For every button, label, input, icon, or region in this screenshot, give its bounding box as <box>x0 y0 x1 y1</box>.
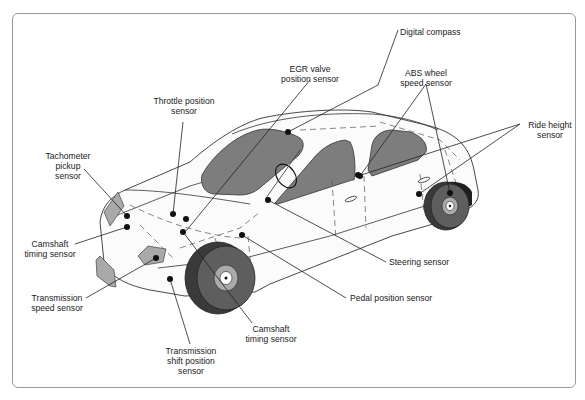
label-tachometer-l1: Tachometer <box>46 151 91 161</box>
dot-ride-height-mid <box>355 172 361 178</box>
label-pedal: Pedal position sensor <box>350 293 432 303</box>
dot-pedal <box>239 232 245 238</box>
label-trans-shift-l2: shift position <box>167 356 215 366</box>
front-wheel <box>185 242 255 314</box>
label-egr-valve-l2: position sensor <box>281 74 339 84</box>
label-digital-compass: Digital compass <box>400 27 461 37</box>
label-transmission-speed-l2: speed sensor <box>31 303 83 313</box>
dot-camshaft-bottom <box>180 229 186 235</box>
label-abs-l2: speed sensor <box>400 78 452 88</box>
label-egr-valve-l1: EGR valve <box>289 64 330 74</box>
label-steering: Steering sensor <box>389 257 449 267</box>
label-throttle-l1: Throttle position <box>153 96 214 106</box>
dot-digital-compass <box>285 129 291 135</box>
label-camshaft-bottom-l2: timing sensor <box>245 334 296 344</box>
label-transmission-speed-l1: Transmission <box>32 293 83 303</box>
dot-tachometer <box>124 213 130 219</box>
label-throttle-l2: sensor <box>171 106 197 116</box>
car-sensor-diagram: Digital compass EGR valve position senso… <box>0 0 585 400</box>
dot-abs-wheel <box>447 190 453 196</box>
label-tachometer-l2: pickup <box>56 161 81 171</box>
label-tachometer-l3: sensor <box>55 171 81 181</box>
dot-trans-shift <box>167 276 173 282</box>
label-trans-shift-l1: Transmission <box>166 346 217 356</box>
dot-transmission-speed <box>153 255 159 261</box>
label-camshaft-left-l2: timing sensor <box>24 249 75 259</box>
dot-egr-valve <box>183 216 189 222</box>
label-abs-l1: ABS wheel <box>405 68 447 78</box>
rear-wheel <box>424 182 472 230</box>
dot-throttle <box>170 211 176 217</box>
car-illustration <box>96 110 478 314</box>
label-ride-height-l1: Ride height <box>528 120 572 130</box>
label-trans-shift-l3: sensor <box>178 366 204 376</box>
dot-ride-height-rear <box>416 191 422 197</box>
label-camshaft-bottom-l1: Camshaft <box>253 324 290 334</box>
dot-camshaft-left <box>124 224 130 230</box>
label-ride-height-l2: sensor <box>537 130 563 140</box>
dot-steering <box>265 197 271 203</box>
label-camshaft-left-l1: Camshaft <box>32 239 69 249</box>
